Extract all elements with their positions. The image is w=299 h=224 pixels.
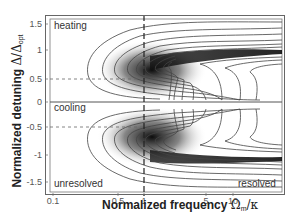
cooling-label: cooling xyxy=(54,102,86,113)
y-axis-label: Normalized detuning Δ/Δopt xyxy=(10,16,24,206)
x-tick: 0.1 xyxy=(43,196,63,206)
x-axis-label: Normalized frequency Ωm/κ xyxy=(70,198,290,212)
resolved-label: resolved xyxy=(238,178,276,189)
heating-label: heating xyxy=(54,20,87,31)
unresolved-label: unresolved xyxy=(54,178,103,189)
